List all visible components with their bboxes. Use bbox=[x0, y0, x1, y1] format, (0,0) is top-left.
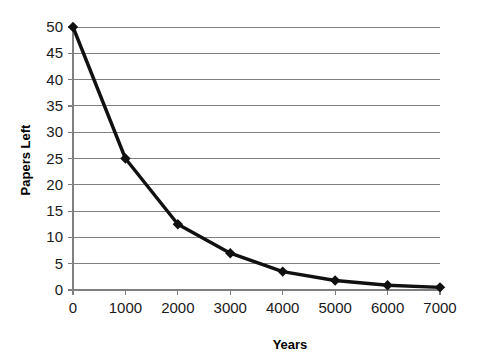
x-tick-label: 6000 bbox=[371, 299, 404, 316]
x-tick-label: 4000 bbox=[266, 299, 299, 316]
y-axis-title: Papers Left bbox=[18, 124, 33, 195]
line-chart: 05101520253035404550 0100020003000400050… bbox=[0, 0, 478, 360]
x-tick-label: 5000 bbox=[318, 299, 351, 316]
data-point-marker bbox=[435, 282, 445, 292]
y-tick-labels-group: 05101520253035404550 bbox=[46, 18, 63, 298]
y-tick-label: 40 bbox=[46, 71, 63, 88]
y-tick-label: 25 bbox=[46, 150, 63, 167]
y-tick-label: 45 bbox=[46, 44, 63, 61]
y-tick-label: 35 bbox=[46, 97, 63, 114]
x-axis-title: Years bbox=[273, 337, 308, 352]
y-tick-label: 20 bbox=[46, 176, 63, 193]
data-point-markers-group bbox=[68, 22, 445, 293]
y-tick-label: 50 bbox=[46, 18, 63, 35]
chart-container: 05101520253035404550 0100020003000400050… bbox=[0, 0, 478, 360]
data-point-marker bbox=[382, 280, 392, 290]
y-tick-label: 5 bbox=[55, 255, 63, 272]
data-point-marker bbox=[68, 22, 78, 32]
y-tick-label: 10 bbox=[46, 228, 63, 245]
data-point-marker bbox=[278, 266, 288, 276]
x-tick-label: 0 bbox=[69, 299, 77, 316]
data-point-marker bbox=[330, 275, 340, 285]
y-tick-label: 15 bbox=[46, 202, 63, 219]
x-tick-label: 1000 bbox=[109, 299, 142, 316]
x-tick-labels-group: 01000200030004000500060007000 bbox=[69, 299, 457, 316]
y-tick-label: 30 bbox=[46, 123, 63, 140]
x-tick-label: 3000 bbox=[214, 299, 247, 316]
y-tick-label: 0 bbox=[55, 281, 63, 298]
x-tick-label: 2000 bbox=[161, 299, 194, 316]
x-tick-label: 7000 bbox=[423, 299, 456, 316]
